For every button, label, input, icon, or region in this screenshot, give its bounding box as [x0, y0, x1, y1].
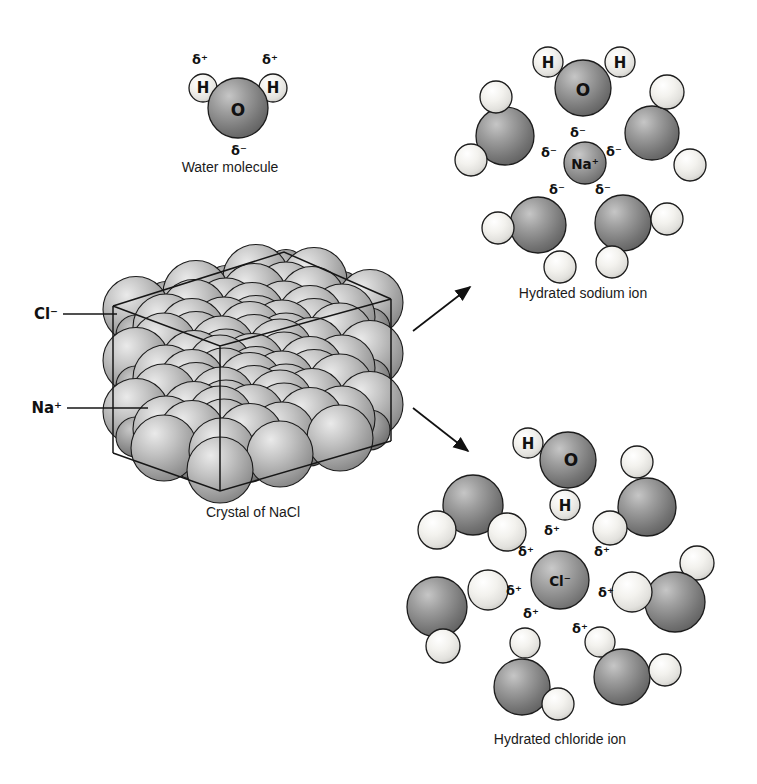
water-molecule-caption: Water molecule — [182, 159, 279, 175]
na-shell-delta-minus-left: δ⁻ — [541, 145, 557, 160]
chloride-shell-caption: Hydrated chloride ion — [494, 731, 626, 747]
solvation-diagram: H H O δ⁺ δ⁺ δ⁻ Water molecule Cl⁻ Na⁺ Cr… — [0, 0, 757, 784]
crystal-sodium-label: Na⁺ — [31, 399, 62, 417]
cl-shell-delta-plus-lower-right: δ⁺ — [572, 621, 588, 636]
na-shell-delta-minus-bottom-left: δ⁻ — [549, 182, 565, 197]
na-shell-delta-minus-bottom-right: δ⁻ — [595, 182, 611, 197]
na-shell-delta-minus-top: δ⁻ — [570, 125, 586, 140]
crystal-caption: Crystal of NaCl — [206, 504, 300, 520]
na-shell-h-left-label: H — [542, 54, 555, 72]
sodium-ion-label: Na⁺ — [571, 156, 599, 172]
oxygen-atom — [595, 195, 651, 251]
oxygen-atom — [594, 649, 650, 705]
hydrogen-atom — [455, 144, 487, 176]
cl-shell-h-top-label: H — [522, 435, 535, 453]
water-o-label: O — [231, 100, 245, 120]
hydrogen-atom — [593, 511, 627, 545]
hydrogen-atom — [544, 251, 576, 283]
oxygen-atom — [407, 577, 467, 637]
oxygen-atom — [645, 572, 705, 632]
cl-shell-o-label: O — [564, 450, 578, 470]
hydrogen-atom — [426, 629, 460, 663]
figure-canvas: H H O δ⁺ δ⁺ δ⁻ Water molecule Cl⁻ Na⁺ Cr… — [0, 0, 757, 784]
oxygen-atom — [510, 197, 566, 253]
hydrogen-atom — [596, 246, 628, 278]
hydrogen-atom — [612, 572, 652, 612]
crystal-chloride-label: Cl⁻ — [34, 305, 58, 323]
na-shell-h-right-label: H — [614, 54, 627, 72]
na-shell-o-label: O — [576, 80, 590, 100]
hydrogen-atom — [480, 81, 512, 113]
cl-shell-delta-plus-upper-right: δ⁺ — [594, 544, 610, 559]
water-h-left-label: H — [197, 79, 210, 97]
hydrogen-atom — [468, 570, 508, 610]
nacl-crystal — [103, 245, 403, 504]
water-delta-minus: δ⁻ — [231, 143, 247, 158]
sodium-shell-caption: Hydrated sodium ion — [519, 285, 647, 301]
hydrogen-atom — [482, 212, 514, 244]
crystal-chloride-ion — [247, 421, 313, 487]
hydrogen-atom — [649, 654, 681, 686]
chloride-ion-label: Cl⁻ — [549, 573, 571, 589]
cl-shell-h-bottom-label: H — [559, 497, 572, 515]
cl-shell-delta-plus-upper-left: δ⁺ — [518, 544, 534, 559]
cl-shell-delta-plus-right: δ⁺ — [598, 585, 614, 600]
hydrogen-atom — [650, 75, 684, 109]
arrow-to-sodium-shell — [413, 287, 470, 331]
cl-shell-delta-plus-top: δ⁺ — [544, 523, 560, 538]
hydrogen-atom — [418, 511, 456, 549]
cl-shell-delta-plus-lower-left: δ⁺ — [523, 606, 539, 621]
cl-shell-delta-plus-left: δ⁺ — [506, 583, 522, 598]
water-h-right-label: H — [267, 79, 280, 97]
crystal-chloride-ion — [307, 405, 373, 471]
water-delta-plus-right: δ⁺ — [262, 52, 278, 67]
hydrogen-atom — [542, 688, 574, 720]
arrow-to-chloride-shell — [413, 408, 468, 451]
hydrogen-atom — [510, 628, 540, 658]
water-delta-plus-left: δ⁺ — [192, 52, 208, 67]
hydrogen-atom — [674, 149, 706, 181]
oxygen-atom — [625, 106, 679, 160]
hydrogen-atom — [621, 446, 653, 478]
hydrogen-atom — [651, 203, 683, 235]
na-shell-delta-minus-right: δ⁻ — [606, 144, 622, 159]
